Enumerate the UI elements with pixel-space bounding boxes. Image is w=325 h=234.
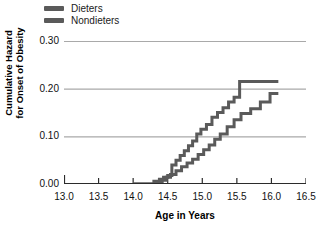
x-tick-label: 16.0 bbox=[254, 192, 288, 202]
y-axis-title-line1: Cumulative Hazard bbox=[3, 27, 14, 118]
legend-item-nondieters: Nondieters bbox=[44, 15, 119, 26]
plot-svg bbox=[64, 41, 306, 184]
x-axis-title: Age in Years bbox=[64, 210, 306, 221]
x-tick-label: 13.0 bbox=[47, 192, 81, 202]
legend-swatch-dieters bbox=[44, 6, 64, 11]
x-tick-label: 16.5 bbox=[289, 192, 323, 202]
plot-area bbox=[64, 41, 306, 184]
axis-baseline bbox=[64, 175, 306, 184]
legend-label-dieters: Dieters bbox=[71, 3, 103, 14]
x-tick-label: 14.5 bbox=[151, 192, 185, 202]
legend-swatch-nondieters bbox=[44, 18, 64, 23]
y-tick-label: 0.10 bbox=[25, 131, 59, 141]
x-tick-label: 13.5 bbox=[82, 192, 116, 202]
y-axis-title-line2: for Onset of Obesity bbox=[14, 27, 25, 118]
series-group bbox=[133, 82, 278, 184]
y-tick-label: 0.20 bbox=[25, 84, 59, 94]
cumulative-hazard-chart: Dieters Nondieters Cumulative Hazard for… bbox=[0, 0, 325, 234]
legend-label-nondieters: Nondieters bbox=[71, 15, 119, 26]
y-axis-title: Cumulative Hazard for Onset of Obesity bbox=[0, 0, 28, 190]
x-tick-label: 14.0 bbox=[116, 192, 150, 202]
chart-legend: Dieters Nondieters bbox=[44, 3, 119, 26]
x-tick-label: 15.5 bbox=[220, 192, 254, 202]
y-tick-label: 0.30 bbox=[25, 36, 59, 46]
gridlines bbox=[64, 42, 306, 137]
legend-item-dieters: Dieters bbox=[44, 3, 119, 14]
x-tick-label: 15.0 bbox=[185, 192, 219, 202]
y-tick-label: 0.00 bbox=[25, 179, 59, 189]
